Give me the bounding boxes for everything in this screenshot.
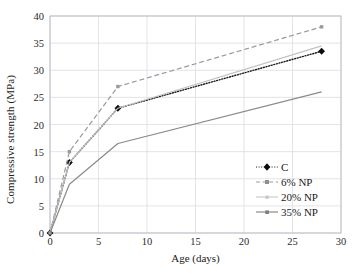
legend-item-20np[interactable]: 20% NP: [256, 190, 318, 204]
legend-label-6np: 6% NP: [281, 176, 312, 188]
x-tick-label: 30: [326, 236, 356, 247]
x-tick-label: 10: [132, 236, 162, 247]
legend-item-35np[interactable]: 35% NP: [256, 205, 318, 219]
x-tick-label: 15: [181, 236, 211, 247]
legend-key-20np: [256, 191, 278, 203]
y-tick-label: 30: [18, 65, 44, 76]
y-tick-label: 15: [18, 146, 44, 157]
x-tick-label: 25: [278, 236, 308, 247]
legend-key-c: [256, 161, 278, 173]
x-axis-title: Age (days): [50, 252, 341, 264]
legend-label-20np: 20% NP: [281, 191, 318, 203]
x-tick-label: 20: [229, 236, 259, 247]
legend-item-c[interactable]: C: [256, 160, 318, 174]
x-tick-label: 5: [84, 236, 114, 247]
y-tick-label: 35: [18, 38, 44, 49]
y-tick-label: 5: [18, 200, 44, 211]
y-axis-title: Compressive strength (MPa): [0, 0, 20, 279]
y-tick-label: 10: [18, 173, 44, 184]
legend-key-6np: [256, 176, 278, 188]
legend-label-35np: 35% NP: [281, 206, 318, 218]
chart-legend: C 6% NP 20% NP 35% NP: [256, 160, 318, 219]
legend-key-35np: [256, 206, 278, 218]
x-tick-label: 0: [35, 236, 65, 247]
y-tick-label: 40: [18, 11, 44, 22]
legend-label-c: C: [281, 161, 288, 173]
y-tick-label: 20: [18, 119, 44, 130]
chart-figure: Compressive strength (MPa) Age (days) 05…: [0, 0, 359, 279]
y-tick-label: 25: [18, 92, 44, 103]
legend-item-6np[interactable]: 6% NP: [256, 175, 318, 189]
